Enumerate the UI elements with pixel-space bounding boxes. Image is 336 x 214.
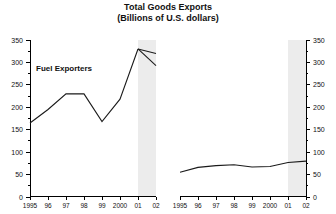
x-axis-tick	[138, 197, 139, 200]
y-axis-label: 350	[313, 37, 335, 44]
panel-fuel-exporters: Fuel Exporters 0501001502002503003501995…	[0, 28, 168, 214]
y-axis-label: 200	[1, 104, 23, 111]
x-axis-tick	[84, 197, 85, 200]
y-axis-tick-minor	[306, 118, 308, 119]
y-axis-tick-minor	[306, 163, 308, 164]
x-axis-tick	[270, 197, 271, 200]
y-axis-label: 150	[1, 126, 23, 133]
data-series-svg	[180, 40, 306, 197]
y-axis-label: 0	[313, 194, 335, 201]
y-axis-tick-minor	[306, 73, 308, 74]
y-axis-label: 250	[313, 81, 335, 88]
x-axis-tick	[234, 197, 235, 200]
y-axis-tick-major	[306, 174, 310, 175]
x-axis-tick	[66, 197, 67, 200]
x-axis-tick	[180, 197, 181, 200]
plot-area-fuel-exporters: 0501001502002503003501995969798992000010…	[30, 40, 156, 197]
y-axis-label: 100	[1, 149, 23, 156]
plot-area-nonfuel-commodity-exporters: 0501001502002503003501995969798992000010…	[180, 40, 306, 197]
y-axis-tick-minor	[306, 96, 308, 97]
y-axis-label: 350	[1, 37, 23, 44]
data-series-svg	[30, 40, 156, 197]
y-axis-tick-minor	[306, 51, 308, 52]
y-axis-label: 100	[313, 149, 335, 156]
y-axis-label: 300	[1, 59, 23, 66]
chart-title-block: Total Goods Exports (Billions of U.S. do…	[0, 2, 336, 24]
x-axis-tick	[198, 197, 199, 200]
x-axis-tick	[216, 197, 217, 200]
chart-title: Total Goods Exports	[0, 2, 336, 13]
x-axis-tick	[306, 197, 307, 200]
x-axis-tick	[102, 197, 103, 200]
panel-nonfuel-commodity-exporters: Nonfuel Commodity Exporters 050100150200…	[168, 28, 336, 214]
y-axis-tick-minor	[306, 140, 308, 141]
x-axis-tick	[30, 197, 31, 200]
y-axis-tick-major	[306, 129, 310, 130]
x-axis-label: 02	[145, 202, 167, 209]
y-axis-label: 0	[1, 194, 23, 201]
y-axis-tick-major	[306, 40, 310, 41]
chart-subtitle: (Billions of U.S. dollars)	[0, 13, 336, 24]
y-axis-label: 300	[313, 59, 335, 66]
y-axis-label: 250	[1, 81, 23, 88]
x-axis-label: 02	[295, 202, 317, 209]
x-axis-tick	[120, 197, 121, 200]
y-axis-tick-minor	[306, 185, 308, 186]
y-axis-tick-major	[306, 107, 310, 108]
data-line	[180, 161, 306, 172]
y-axis-tick-major	[306, 62, 310, 63]
y-axis-label: 200	[313, 104, 335, 111]
y-axis-tick-major	[306, 152, 310, 153]
y-axis-tick-major	[306, 84, 310, 85]
x-axis-tick	[252, 197, 253, 200]
chart-root: Total Goods Exports (Billions of U.S. do…	[0, 0, 336, 214]
y-axis-label: 150	[313, 126, 335, 133]
data-line	[30, 49, 138, 123]
x-axis-tick	[48, 197, 49, 200]
y-axis-label: 50	[313, 171, 335, 178]
x-axis-tick	[288, 197, 289, 200]
y-axis-label: 50	[1, 171, 23, 178]
x-axis-tick	[156, 197, 157, 200]
